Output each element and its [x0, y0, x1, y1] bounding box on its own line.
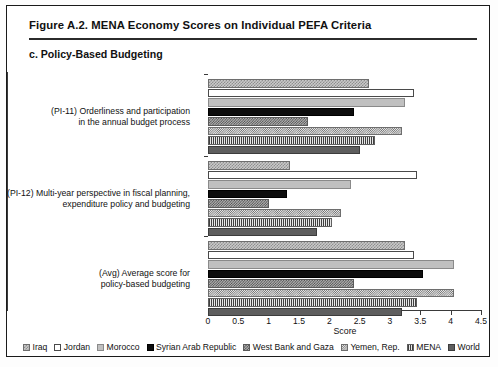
x-tick-label: 4.5 [475, 316, 487, 326]
legend-label: Yemen, Rep. [350, 342, 399, 352]
legend-label: MENA [416, 342, 441, 352]
title-divider [29, 38, 477, 40]
bar-iraq [208, 241, 405, 250]
bar-mena [208, 136, 375, 145]
legend-label: World [458, 342, 480, 352]
legend-label: Iraq [33, 342, 48, 352]
legend-item-jordan[interactable]: Jordan [54, 342, 90, 352]
bar-yemen-rep [208, 127, 402, 136]
legend-label: Jordan [64, 342, 90, 352]
bar-syrian-arab-republic [208, 108, 354, 117]
x-tick-label: 1.5 [293, 316, 305, 326]
category-label: (PI-11) Orderliness and participationin … [0, 106, 190, 128]
bar-world [208, 146, 360, 155]
bar-syrian-arab-republic [208, 190, 287, 199]
category-label-line: (Avg) Average score for [0, 268, 190, 279]
bar-mena [208, 218, 332, 227]
y-tick [204, 156, 208, 157]
y-tick [204, 74, 208, 75]
x-tick-label: 0 [206, 316, 211, 326]
y-tick [204, 236, 208, 237]
bar-west-bank-and-gaza [208, 279, 354, 288]
legend-item-iraq[interactable]: Iraq [23, 342, 47, 352]
x-tick [451, 311, 452, 315]
page-title: Figure A.2. MENA Economy Scores on Indiv… [29, 19, 469, 31]
bar-morocco [208, 98, 405, 107]
legend-label: Syrian Arab Republic [156, 342, 236, 352]
bar-world [208, 308, 402, 317]
x-tick-label: 0.5 [232, 316, 244, 326]
x-tick-label: 4 [448, 316, 453, 326]
legend-item-world[interactable]: World [448, 342, 480, 352]
legend-label: West Bank and Gaza [253, 342, 334, 352]
legend-swatch-icon [243, 344, 250, 351]
bar-jordan [208, 89, 414, 98]
bar-morocco [208, 260, 454, 269]
legend-item-yemen-rep[interactable]: Yemen, Rep. [341, 342, 400, 352]
bar-morocco [208, 180, 351, 189]
x-tick [481, 311, 482, 315]
legend-item-mena[interactable]: MENA [407, 342, 441, 352]
bar-iraq [208, 79, 369, 88]
x-tick-label: 2 [327, 316, 332, 326]
legend-swatch-icon [341, 344, 348, 351]
bar-yemen-rep [208, 289, 454, 298]
bar-iraq [208, 161, 290, 170]
legend-label: Morocco [107, 342, 140, 352]
legend-item-syrian-arab-republic[interactable]: Syrian Arab Republic [147, 342, 237, 352]
x-axis-label: Score [208, 326, 482, 336]
category-label-line: (PI-11) Orderliness and participation [0, 106, 190, 117]
category-label: (PI-12) Multi-year perspective in fiscal… [0, 188, 190, 210]
legend-swatch-icon [97, 344, 104, 351]
legend-swatch-icon [448, 344, 455, 351]
x-tick-label: 1 [266, 316, 271, 326]
legend-swatch-icon [23, 344, 30, 351]
bar-west-bank-and-gaza [208, 199, 269, 208]
x-tick-label: 2.5 [354, 316, 366, 326]
bar-world [208, 228, 317, 237]
figure-page: Figure A.2. MENA Economy Scores on Indiv… [0, 0, 498, 367]
legend-item-west-bank-and-gaza[interactable]: West Bank and Gaza [243, 342, 334, 352]
x-tick-label: 3 [388, 316, 393, 326]
legend-swatch-icon [407, 344, 414, 351]
bar-syrian-arab-republic [208, 270, 423, 279]
category-label-line: policy-based budgeting [0, 279, 190, 290]
bar-yemen-rep [208, 209, 341, 218]
category-label-line: expenditure policy and budgeting [0, 199, 190, 210]
legend-swatch-icon [147, 344, 154, 351]
bar-west-bank-and-gaza [208, 117, 308, 126]
legend-swatch-icon [54, 344, 61, 351]
x-tick [420, 311, 421, 315]
bar-jordan [208, 171, 417, 180]
bar-mena [208, 298, 417, 307]
bar-jordan [208, 251, 414, 260]
category-label: (Avg) Average score forpolicy-based budg… [0, 268, 190, 290]
panel-subtitle: c. Policy-Based Budgeting [29, 48, 163, 60]
chart-legend: IraqJordanMoroccoSyrian Arab RepublicWes… [23, 342, 487, 352]
x-tick-label: 3.5 [414, 316, 426, 326]
category-label-line: (PI-12) Multi-year perspective in fiscal… [0, 188, 190, 199]
figure-frame: Figure A.2. MENA Economy Scores on Indiv… [6, 5, 490, 357]
category-label-line: in the annual budget process [0, 117, 190, 128]
legend-item-morocco[interactable]: Morocco [97, 342, 139, 352]
